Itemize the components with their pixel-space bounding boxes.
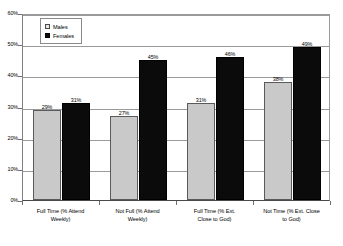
x-axis-category-line: to God) [253,216,330,224]
x-axis-category-line: Not Time (% Ext. Close [253,208,330,216]
x-axis-tick-mark [22,201,23,205]
bar-value-label: 45% [148,54,159,60]
bar-value-label: 31% [71,97,82,103]
chart-legend: Males Females [40,18,82,44]
y-axis-tick-label: 30% [0,105,18,110]
x-axis-category-label: Full Time (% AttendWeekly) [22,208,99,223]
bar-males-2: 31% [187,103,215,200]
y-axis-tick-label: 40% [0,73,18,78]
x-axis-tick-mark [253,201,254,205]
bar-value-label: 38% [273,76,284,82]
legend-swatch-females-icon [45,33,50,38]
bar-females-0: 31% [62,103,90,200]
x-axis-category-label: Not Time (% Ext. Closeto God) [253,208,330,223]
x-axis-category-line: Weekly) [99,216,176,224]
x-axis-category-line: Full Time (% Attend [22,208,99,216]
bar-males-1: 27% [110,116,138,200]
bar-value-label: 49% [302,41,313,47]
legend-swatch-males-icon [45,24,50,29]
x-axis-category-line: Not Full (% Attend [99,208,176,216]
legend-item-females: Females [45,31,74,40]
gridline [23,46,329,47]
y-axis-tick-label: 50% [0,42,18,47]
x-axis-category-line: Full Time (% Ext. [176,208,253,216]
bar-females-1: 45% [139,60,167,200]
gridline [23,15,329,16]
x-axis-tick-mark [99,201,100,205]
x-axis-tick-mark [176,201,177,205]
bar-value-label: 29% [42,104,53,110]
legend-label-males: Males [53,24,68,30]
y-axis-tick-label: 20% [0,136,18,141]
legend-label-females: Females [53,33,74,39]
legend-item-males: Males [45,22,74,31]
bar-value-label: 46% [225,51,236,57]
x-axis-category-label: Not Full (% AttendWeekly) [99,208,176,223]
x-axis-category-line: Close to God) [176,216,253,224]
x-axis-tick-mark [330,201,331,205]
bar-value-label: 27% [119,110,130,116]
bar-females-2: 46% [216,57,244,200]
y-axis-tick-label: 0% [0,198,18,203]
bar-females-3: 49% [293,47,321,200]
bar-value-label: 31% [196,97,207,103]
y-axis-tick-label: 60% [0,11,18,16]
bar-chart: 0%10%20%30%40%50%60% 29%31%27%45%31%46%3… [0,0,343,246]
x-axis-category-label: Full Time (% Ext.Close to God) [176,208,253,223]
bar-males-3: 38% [264,82,292,200]
bar-males-0: 29% [33,110,61,200]
y-axis-tick-label: 10% [0,167,18,172]
x-axis-category-line: Weekly) [22,216,99,224]
